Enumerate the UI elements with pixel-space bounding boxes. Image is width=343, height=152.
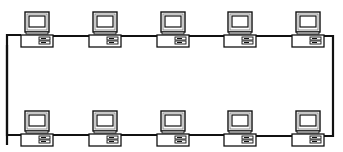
computer-node-bottom-3	[157, 111, 189, 146]
computer-node-top-1	[21, 12, 53, 47]
computer-node-top-5	[292, 12, 324, 47]
desktop-computer-icon	[21, 12, 53, 47]
computer-node-top-4	[224, 12, 256, 47]
computer-node-top-2	[89, 12, 121, 47]
computer-node-top-3	[157, 12, 189, 47]
desktop-computer-icon	[224, 12, 256, 47]
computer-node-bottom-1	[21, 111, 53, 146]
network-diagram	[0, 0, 343, 152]
computer-node-bottom-4	[224, 111, 256, 146]
desktop-computer-icon	[157, 12, 189, 47]
computer-node-bottom-5	[292, 111, 324, 146]
computer-node-bottom-2	[89, 111, 121, 146]
desktop-computer-icon	[292, 111, 324, 146]
desktop-computer-icon	[224, 111, 256, 146]
desktop-computer-icon	[89, 12, 121, 47]
desktop-computer-icon	[157, 111, 189, 146]
desktop-computer-icon	[292, 12, 324, 47]
desktop-computer-icon	[89, 111, 121, 146]
desktop-computer-icon	[21, 111, 53, 146]
